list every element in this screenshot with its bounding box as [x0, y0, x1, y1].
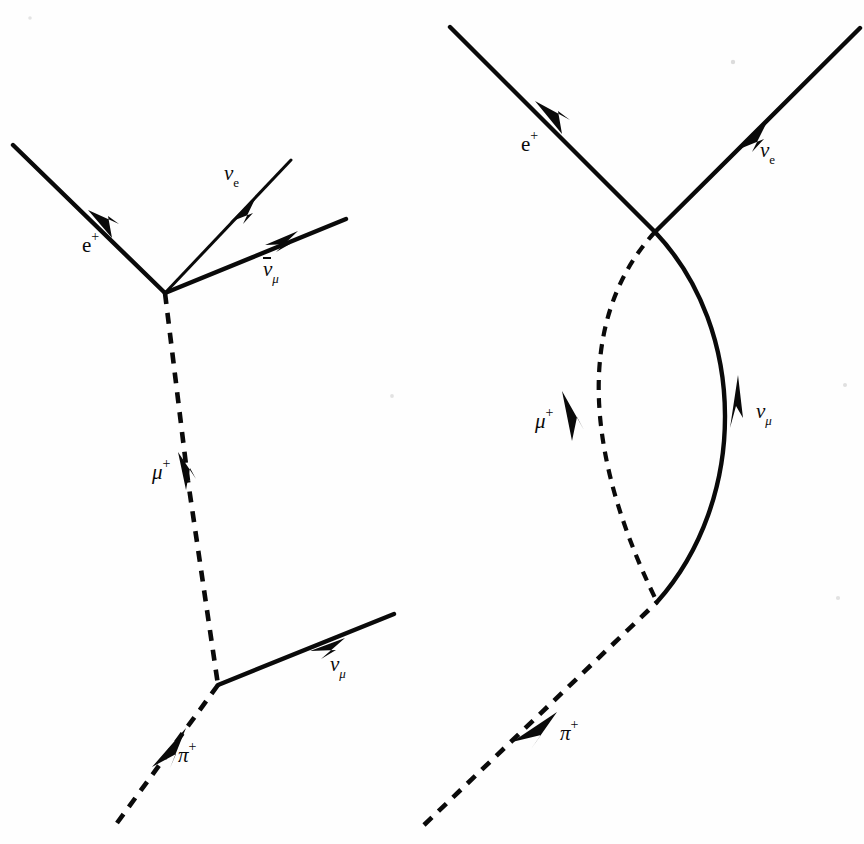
scan-artifacts — [28, 16, 847, 600]
label-left-positron: e+ — [82, 235, 99, 256]
label-right-pion: π+ — [560, 723, 578, 744]
label-left-electron-neutrino: νe — [224, 163, 239, 186]
right-pion-line — [424, 602, 657, 825]
left-antimuon-line — [165, 293, 218, 685]
label-left-pion: π+ — [178, 745, 196, 766]
label-right-positron: e+ — [521, 134, 538, 155]
right-antimuon-arrowhead — [562, 391, 584, 441]
right-muon-neutrino-arrowhead — [730, 375, 743, 428]
right-diagram — [424, 27, 860, 825]
label-left-anti-muon-neutrino: νμ — [263, 259, 279, 282]
label-left-antimuon: μ+ — [152, 462, 170, 483]
right-pion-arrowhead — [512, 712, 557, 749]
label-right-antimuon: μ+ — [535, 411, 553, 432]
left-diagram — [13, 145, 394, 823]
left-muon-neutrino-line — [218, 614, 394, 685]
figure-root: e+ νe νμ μ+ νμ π+ e+ νe μ+ νμ π+ — [0, 0, 864, 844]
right-muon-neutrino-curve — [655, 232, 725, 602]
label-right-muon-neutrino: νμ — [756, 401, 772, 424]
left-anti-muon-neutrino-line — [165, 219, 346, 293]
right-electron-neutrino-line — [655, 28, 860, 232]
right-antimuon-curve — [599, 232, 657, 602]
left-positron-line — [13, 145, 165, 293]
label-right-electron-neutrino: νe — [760, 140, 775, 163]
diagram-canvas — [0, 0, 864, 844]
label-left-muon-neutrino: νμ — [330, 654, 346, 677]
right-positron-line — [450, 27, 655, 232]
left-electron-neutrino-arrowhead — [230, 197, 256, 224]
